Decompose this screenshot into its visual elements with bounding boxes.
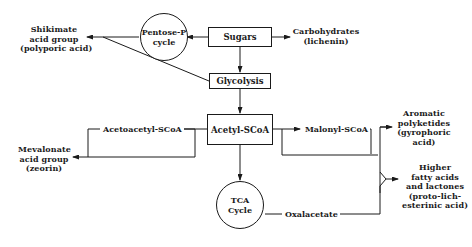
acetoacetyl-scoa-label: Acetoacetyl-SCoA bbox=[101, 124, 184, 134]
mevalonate-line3: (zeorin) bbox=[18, 164, 70, 174]
aromatic-line4: acid) bbox=[393, 138, 455, 148]
mevalonate-label: Mevalonate acid group (zeorin) bbox=[18, 145, 70, 174]
higher-fatty-line5: esterinic acid) bbox=[398, 201, 472, 211]
pathway-diagram: Sugars Glycolysis Acetyl-SCoA Pentose-P … bbox=[0, 0, 472, 247]
acetyl-scoa-node: Acetyl-SCoA bbox=[207, 114, 273, 145]
shikimate-line3: (polyporic acid) bbox=[20, 44, 88, 54]
carbohydrates-label: Carbohydrates (lichenin) bbox=[291, 27, 361, 46]
oxalacetate-label: Oxalacetate bbox=[283, 209, 340, 219]
pentose-p-cycle-node: Pentose-P cycle bbox=[140, 13, 188, 61]
sugars-node: Sugars bbox=[208, 27, 272, 47]
higher-fatty-acids-label: Higher fatty acids and lactones (proto-l… bbox=[398, 163, 472, 211]
tca-line2: Cycle bbox=[228, 205, 252, 215]
pentose-p-line1: Pentose-P bbox=[142, 27, 187, 37]
glycolysis-node: Glycolysis bbox=[209, 73, 271, 89]
acetyl-scoa-label: Acetyl-SCoA bbox=[211, 125, 269, 135]
aromatic-polyketides-label: Aromatic polyketides (gyrophoric acid) bbox=[393, 109, 455, 147]
tca-cycle-node: TCA Cycle bbox=[216, 181, 264, 229]
pentose-p-line2: cycle bbox=[153, 37, 176, 47]
shikimate-label: Shikimate acid group (polyporic acid) bbox=[20, 25, 88, 54]
tca-line1: TCA bbox=[231, 195, 250, 205]
malonyl-scoa-label: Malonyl-SCoA bbox=[303, 124, 370, 134]
carbohydrates-line2: (lichenin) bbox=[291, 37, 361, 47]
glycolysis-label: Glycolysis bbox=[216, 76, 263, 86]
sugars-label: Sugars bbox=[223, 32, 256, 42]
